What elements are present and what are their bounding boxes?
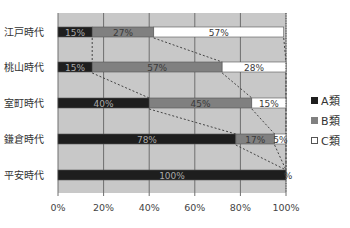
category-label: 平安時代 [4, 169, 44, 181]
data-label: 57% [209, 28, 229, 38]
legend-swatch-a-icon [311, 97, 318, 104]
category-label: 桃山時代 [4, 61, 44, 73]
data-label: 100% [159, 171, 185, 181]
chart-canvas: 0%20%40%60%80%100%江戸時代15%27%57%桃山時代15%57… [0, 0, 350, 228]
x-tick-label: 80% [230, 202, 251, 213]
x-tick-label: 100% [272, 202, 299, 213]
category-label: 鎌倉時代 [4, 133, 44, 145]
category-label: 室町時代 [4, 97, 44, 109]
legend-item-b: B類 [311, 110, 340, 130]
x-tick-label: 20% [93, 202, 114, 213]
legend-label-b: B類 [321, 112, 340, 128]
legend-item-a: A類 [311, 90, 340, 110]
legend-item-c: C類 [311, 130, 340, 150]
legend-label-a: A類 [321, 92, 340, 108]
category-label: 江戸時代 [4, 27, 44, 38]
legend-swatch-c-icon [311, 137, 318, 144]
chart-legend: A類 B類 C類 [311, 90, 340, 150]
data-label: 17% [245, 135, 265, 145]
data-label: 28% [244, 63, 264, 73]
data-label: 27% [113, 28, 133, 38]
data-label: 40% [94, 99, 114, 109]
data-label: 78% [137, 135, 157, 145]
stacked-bar-chart: 0%20%40%60%80%100%江戸時代15%27%57%桃山時代15%57… [0, 0, 350, 228]
data-label: % [284, 171, 293, 181]
x-tick-label: 40% [139, 202, 160, 213]
data-label: 15% [65, 28, 85, 38]
x-tick-label: 0% [50, 202, 65, 213]
legend-label-c: C類 [321, 132, 340, 148]
legend-swatch-b-icon [311, 117, 318, 124]
data-label: 45% [190, 99, 210, 109]
data-label: 57% [147, 63, 167, 73]
data-label: 15% [259, 99, 279, 109]
data-label: 15% [65, 63, 85, 73]
x-tick-label: 60% [184, 202, 205, 213]
